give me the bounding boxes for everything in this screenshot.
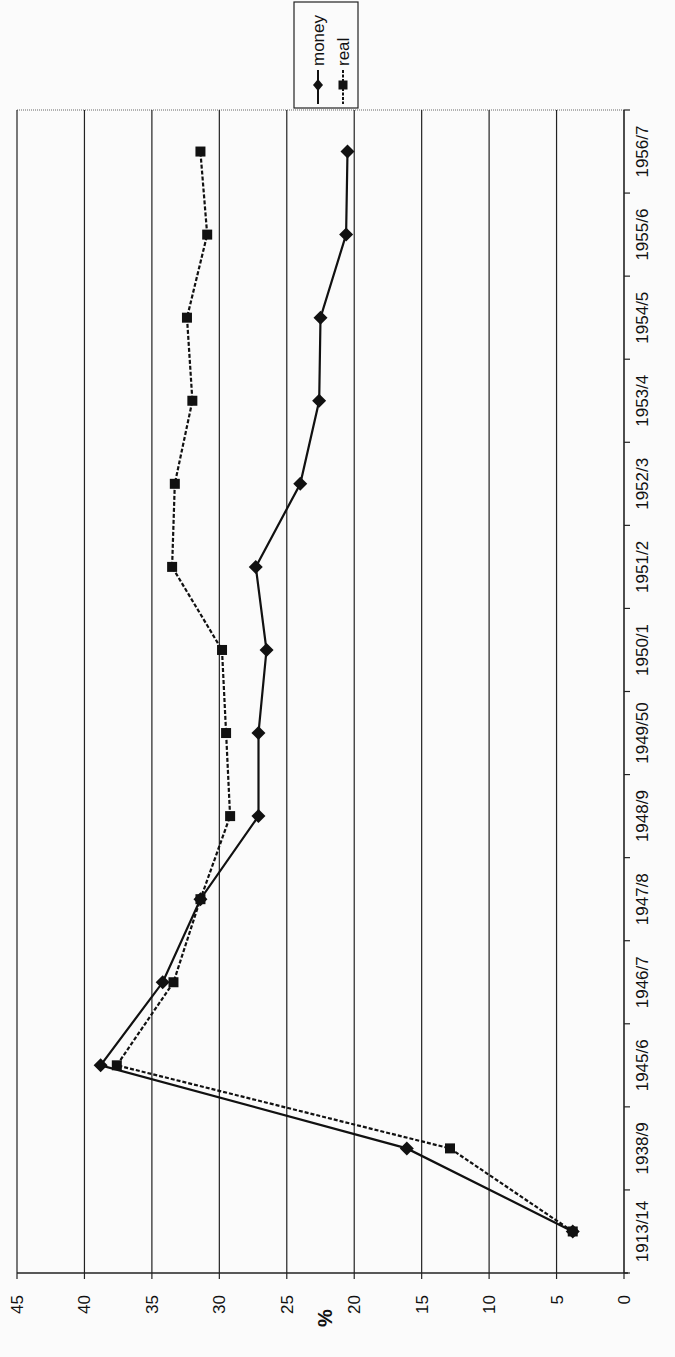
category-label: 1948/9 [633, 790, 652, 842]
category-label: 1956/7 [633, 126, 652, 178]
category-label: 1949/50 [633, 702, 652, 763]
square-marker-icon [167, 562, 177, 572]
diamond-marker-icon [251, 726, 265, 740]
square-marker-icon [195, 894, 205, 904]
value-tick-label: 30 [210, 1295, 229, 1314]
diamond-marker-icon [260, 643, 274, 657]
legend: money real [294, 2, 358, 108]
square-marker-icon [182, 313, 192, 323]
diamond-marker-icon [312, 394, 326, 408]
square-marker-icon [217, 645, 227, 655]
diamond-marker-icon [293, 477, 307, 491]
diamond-marker-icon [251, 809, 265, 823]
category-label: 1946/7 [633, 956, 652, 1008]
category-label: 1951/2 [633, 541, 652, 593]
value-axis-title: % [314, 1309, 336, 1327]
square-marker-icon [187, 396, 197, 406]
series-money [94, 145, 580, 1239]
category-label: 1954/5 [633, 292, 652, 344]
category-label: 1953/4 [633, 375, 652, 427]
series-line-money [101, 152, 573, 1232]
value-tick-label: 45 [8, 1295, 27, 1314]
value-tick-label: 5 [548, 1295, 567, 1304]
square-marker-icon [170, 479, 180, 489]
diamond-marker-icon [339, 228, 353, 242]
category-label: 1950/1 [633, 624, 652, 676]
square-marker-icon [168, 977, 178, 987]
category-label: 1955/6 [633, 209, 652, 261]
series-lines [94, 145, 580, 1239]
line-chart: 0510152025303540451913/141938/91945/6194… [0, 0, 675, 1357]
value-tick-label: 0 [615, 1295, 634, 1304]
category-label: 1938/9 [633, 1122, 652, 1174]
diamond-marker-icon [340, 145, 354, 159]
value-tick-label: 35 [143, 1295, 162, 1314]
legend-label-money: money [309, 14, 328, 66]
category-label: 1947/8 [633, 873, 652, 925]
square-marker-icon [225, 811, 235, 821]
square-marker-icon [568, 1226, 578, 1236]
gridlines [17, 110, 624, 1273]
square-marker-icon [339, 81, 348, 90]
series-real [112, 147, 578, 1237]
square-marker-icon [445, 1143, 455, 1153]
diamond-marker-icon [400, 1141, 414, 1155]
value-tick-label: 15 [413, 1295, 432, 1314]
value-tick-label: 40 [75, 1295, 94, 1314]
legend-label-real: real [334, 38, 353, 66]
square-marker-icon [202, 230, 212, 240]
value-tick-label: 10 [480, 1295, 499, 1314]
value-tick-label: 25 [278, 1295, 297, 1314]
square-marker-icon [221, 728, 231, 738]
square-marker-icon [195, 147, 205, 157]
diamond-marker-icon [314, 311, 328, 325]
category-label: 1945/6 [633, 1039, 652, 1091]
value-tick-label: 20 [345, 1295, 364, 1314]
square-marker-icon [112, 1060, 122, 1070]
diamond-marker-icon [249, 560, 263, 574]
category-label: 1913/14 [633, 1201, 652, 1262]
category-label: 1952/3 [633, 458, 652, 510]
